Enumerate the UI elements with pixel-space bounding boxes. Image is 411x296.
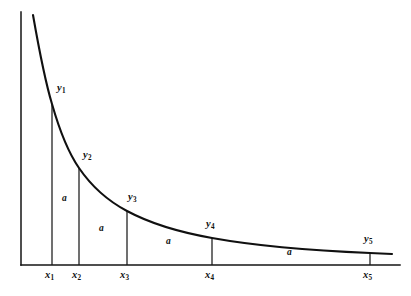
- subscript-4: 4: [211, 223, 215, 231]
- axis-label-x3: x3: [120, 270, 129, 281]
- subscript-4: 4: [211, 274, 215, 282]
- figure-container: y1 y2 y3 y4 y5 x1 x2 x3 x4 x5 a a a a: [0, 0, 411, 296]
- interval-label-a-2: a: [99, 224, 104, 234]
- subscript-5: 5: [369, 238, 373, 246]
- subscript-5: 5: [369, 274, 373, 282]
- subscript-3: 3: [133, 196, 137, 204]
- subscript-3: 3: [126, 274, 130, 282]
- ordinates-group: [52, 104, 370, 265]
- subscript-2: 2: [88, 154, 92, 162]
- curve-label-y5: y5: [364, 234, 372, 245]
- axis-label-x5: x5: [363, 270, 372, 281]
- axis-label-x2: x2: [72, 270, 81, 281]
- axis-label-x4: x4: [205, 270, 214, 281]
- interval-label-a-3: a: [166, 237, 171, 247]
- curve-label-y1: y1: [57, 83, 65, 94]
- interval-label-a-1: a: [62, 194, 67, 204]
- figure-canvas: [0, 0, 411, 296]
- curve-label-y2: y2: [83, 150, 91, 161]
- interval-label-a-4: a: [287, 248, 292, 258]
- axis-label-x1: x1: [45, 270, 54, 281]
- subscript-2: 2: [78, 274, 82, 282]
- curve-label-y4: y4: [206, 219, 214, 230]
- subscript-1: 1: [51, 274, 55, 282]
- subscript-1: 1: [62, 87, 66, 95]
- curve-label-y3: y3: [128, 192, 136, 203]
